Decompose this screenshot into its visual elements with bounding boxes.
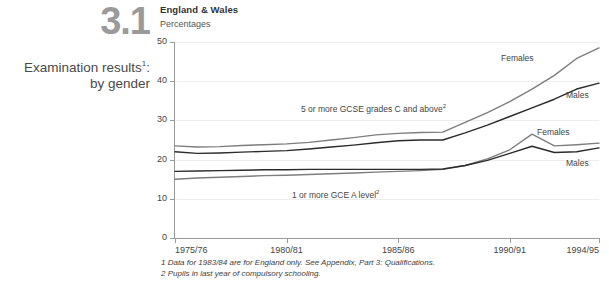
y-axis-label: 30	[143, 115, 167, 124]
series-line	[175, 134, 599, 179]
x-axis-label: 1975/76	[175, 245, 208, 255]
series-line	[175, 48, 599, 147]
annotation-gcse-text: 5 or more GCSE grades C and above	[301, 104, 443, 114]
annotation-gcse: 5 or more GCSE grades C and above2	[301, 103, 446, 114]
y-axis-label: 20	[143, 155, 167, 164]
figure-page: 3.1 Examination results1: by gender Engl…	[0, 0, 609, 282]
x-axis-label: 1985/86	[382, 245, 415, 255]
y-axis-label: 40	[143, 76, 167, 85]
figure-title-colon: :	[146, 60, 150, 75]
figure-title-line1: Examination results	[24, 60, 142, 75]
annotation-alevel: 1 or more GCE A level2	[292, 189, 379, 200]
annotation-gcse-sup: 2	[443, 103, 446, 109]
label-alevel-females: Females	[537, 127, 570, 137]
footnote-2: 2 Pupils in last year of compulsory scho…	[161, 269, 435, 280]
label-gcse-females: Females	[501, 53, 534, 63]
x-axis-label: 1990/91	[493, 245, 526, 255]
chart-plot-area: 01020304050 1975/761980/811985/861990/91…	[175, 42, 599, 238]
y-axis-label: 0	[143, 233, 167, 242]
x-axis-label: 1994/95	[566, 245, 599, 255]
footnote-1: 1 Data for 1983/84 are for England only.…	[161, 258, 435, 269]
series-line	[175, 83, 599, 153]
label-gcse-males: Males	[566, 90, 589, 100]
figure-number: 3.1	[82, 2, 150, 40]
chart-region-label: England & Wales	[160, 4, 238, 15]
annotation-alevel-text: 1 or more GCE A level	[292, 190, 376, 200]
annotation-alevel-sup: 2	[376, 189, 379, 195]
chart-units-label: Percentages	[160, 19, 211, 29]
figure-title-line2: by gender	[90, 76, 150, 91]
x-axis-label: 1980/81	[270, 245, 303, 255]
series-line	[175, 146, 599, 171]
y-axis-label: 50	[143, 37, 167, 46]
footnotes: 1 Data for 1983/84 are for England only.…	[161, 258, 435, 279]
x-axis-tick	[599, 238, 600, 243]
label-alevel-males: Males	[566, 158, 589, 168]
series-lines	[175, 42, 599, 239]
y-axis-label: 10	[143, 194, 167, 203]
page-title: Examination results1: by gender	[0, 56, 150, 92]
